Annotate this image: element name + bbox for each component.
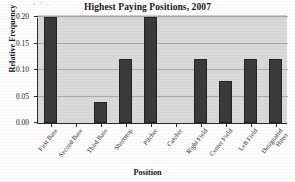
x-axis-tick-label: Shortstop: [112, 127, 133, 151]
y-axis-tick: 0.15: [34, 43, 38, 44]
bar: [94, 102, 107, 123]
bar: [244, 59, 257, 123]
bar: [144, 17, 157, 123]
bar: [44, 17, 57, 123]
x-axis-tick: [276, 123, 277, 127]
x-axis-tick: [176, 123, 177, 127]
y-axis-tick: 0.05: [34, 96, 38, 97]
y-axis-tick-label: 0.00: [16, 118, 29, 127]
x-axis-tick-label: Center Field: [207, 127, 233, 157]
bar: [219, 81, 232, 123]
x-axis-tick-label: DesignatedHitter: [259, 127, 289, 159]
x-axis-tick: [51, 123, 52, 127]
x-axis-tick-label: Second Base: [57, 127, 84, 158]
x-axis-tick: [226, 123, 227, 127]
gridline: [38, 16, 288, 17]
x-axis-tick: [76, 123, 77, 127]
x-axis-title: Position: [0, 168, 295, 177]
y-axis-tick-label: 0.10: [16, 65, 29, 74]
chart-title: Highest Paying Positions, 2007: [0, 2, 295, 12]
bar-chart-screenshot: Highest Paying Positions, 2007 Relative …: [0, 0, 295, 182]
y-axis-tick: 0.20: [34, 16, 38, 17]
y-axis-tick: 0.00: [34, 122, 38, 123]
x-axis-tick: [126, 123, 127, 127]
y-axis-tick-label: 0.15: [16, 38, 29, 47]
x-axis-tick-label: Third Base: [85, 127, 109, 154]
x-axis-tick: [251, 123, 252, 127]
x-axis-tick: [101, 123, 102, 127]
bar: [194, 59, 207, 123]
bar: [119, 59, 132, 123]
y-axis-tick-label: 0.05: [16, 91, 29, 100]
x-axis-tick-label: First Base: [36, 127, 58, 152]
x-axis-tick-label: Right Field: [184, 127, 208, 155]
x-axis-tick-label: Catcher: [165, 127, 183, 148]
y-axis-tick-label: 0.20: [16, 12, 29, 21]
x-axis-tick: [201, 123, 202, 127]
bar: [269, 59, 282, 123]
x-axis-tick-label: Left Field: [236, 127, 258, 152]
x-axis-tick: [151, 123, 152, 127]
gridline: [38, 43, 288, 44]
y-axis-tick: 0.10: [34, 69, 38, 70]
plot-area: 0.000.050.100.150.20: [37, 18, 287, 124]
x-axis-tick-label: Pitcher: [141, 127, 158, 146]
